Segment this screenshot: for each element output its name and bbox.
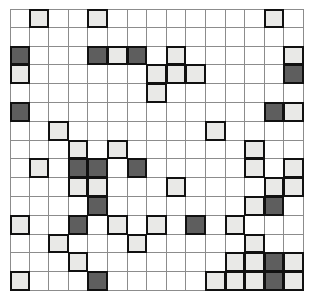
grid-cell-7-14 bbox=[284, 141, 304, 160]
grid-cell-13-14 bbox=[284, 253, 304, 272]
grid-cell-1-5 bbox=[108, 28, 128, 47]
grid-cell-1-6 bbox=[128, 28, 148, 47]
grid-cell-14-6 bbox=[128, 272, 148, 291]
grid-cell-9-14 bbox=[284, 178, 304, 197]
grid-cell-4-6 bbox=[128, 84, 148, 103]
grid-cell-0-14 bbox=[284, 9, 304, 28]
grid-cell-7-9 bbox=[186, 141, 206, 160]
grid-cell-10-14 bbox=[284, 197, 304, 216]
grid-cell-8-0 bbox=[10, 159, 30, 178]
grid-cell-8-9 bbox=[186, 159, 206, 178]
grid-cell-1-11 bbox=[226, 28, 246, 47]
grid-cell-13-7 bbox=[147, 253, 167, 272]
grid-cell-2-8 bbox=[167, 47, 187, 66]
grid-cell-12-7 bbox=[147, 235, 167, 254]
grid-cell-12-12 bbox=[245, 235, 265, 254]
grid-cell-9-6 bbox=[128, 178, 148, 197]
grid-cell-8-13 bbox=[265, 159, 285, 178]
grid-cell-10-13 bbox=[265, 197, 285, 216]
grid-cell-11-1 bbox=[30, 216, 50, 235]
grid-cell-3-14 bbox=[284, 65, 304, 84]
grid-cell-1-2 bbox=[49, 28, 69, 47]
grid-cell-14-4 bbox=[88, 272, 108, 291]
grid-cell-4-1 bbox=[30, 84, 50, 103]
grid-cell-8-4 bbox=[88, 159, 108, 178]
grid-cell-2-2 bbox=[49, 47, 69, 66]
grid-cell-5-10 bbox=[206, 103, 226, 122]
grid-cell-4-11 bbox=[226, 84, 246, 103]
grid-cell-4-13 bbox=[265, 84, 285, 103]
grid-cell-2-4 bbox=[88, 47, 108, 66]
grid-cell-4-14 bbox=[284, 84, 304, 103]
grid-cell-8-6 bbox=[128, 159, 148, 178]
grid-cell-8-14 bbox=[284, 159, 304, 178]
grid-cell-2-12 bbox=[245, 47, 265, 66]
grid-cell-6-0 bbox=[10, 122, 30, 141]
grid-cell-9-12 bbox=[245, 178, 265, 197]
grid-cell-4-3 bbox=[69, 84, 89, 103]
grid-cell-8-12 bbox=[245, 159, 265, 178]
grid-cell-14-2 bbox=[49, 272, 69, 291]
grid-cell-14-3 bbox=[69, 272, 89, 291]
grid-cell-1-7 bbox=[147, 28, 167, 47]
grid-cell-6-3 bbox=[69, 122, 89, 141]
grid-cell-14-11 bbox=[226, 272, 246, 291]
grid-cell-10-4 bbox=[88, 197, 108, 216]
grid-cell-9-2 bbox=[49, 178, 69, 197]
grid-cell-8-3 bbox=[69, 159, 89, 178]
grid-cell-12-14 bbox=[284, 235, 304, 254]
grid-cell-8-11 bbox=[226, 159, 246, 178]
grid-cell-14-8 bbox=[167, 272, 187, 291]
grid-cell-11-12 bbox=[245, 216, 265, 235]
grid-cell-12-3 bbox=[69, 235, 89, 254]
grid-cell-6-1 bbox=[30, 122, 50, 141]
grid-cell-10-1 bbox=[30, 197, 50, 216]
grid-cell-2-7 bbox=[147, 47, 167, 66]
grid-cell-2-11 bbox=[226, 47, 246, 66]
grid-cell-3-11 bbox=[226, 65, 246, 84]
grid-cells bbox=[10, 9, 304, 291]
grid-cell-3-6 bbox=[128, 65, 148, 84]
grid-cell-14-1 bbox=[30, 272, 50, 291]
grid-cell-6-11 bbox=[226, 122, 246, 141]
grid-cell-8-10 bbox=[206, 159, 226, 178]
grid-cell-9-4 bbox=[88, 178, 108, 197]
grid-cell-11-5 bbox=[108, 216, 128, 235]
grid-cell-13-6 bbox=[128, 253, 148, 272]
grid-cell-2-13 bbox=[265, 47, 285, 66]
grid-cell-11-10 bbox=[206, 216, 226, 235]
grid-cell-1-10 bbox=[206, 28, 226, 47]
grid-cell-14-0 bbox=[10, 272, 30, 291]
grid-cell-14-13 bbox=[265, 272, 285, 291]
grid-cell-0-0 bbox=[10, 9, 30, 28]
grid-cell-0-7 bbox=[147, 9, 167, 28]
grid-cell-3-2 bbox=[49, 65, 69, 84]
grid-cell-8-2 bbox=[49, 159, 69, 178]
grid-cell-0-10 bbox=[206, 9, 226, 28]
grid-cell-6-13 bbox=[265, 122, 285, 141]
grid-cell-7-6 bbox=[128, 141, 148, 160]
grid-cell-13-8 bbox=[167, 253, 187, 272]
grid-cell-11-0 bbox=[10, 216, 30, 235]
grid-cell-0-4 bbox=[88, 9, 108, 28]
grid-cell-14-12 bbox=[245, 272, 265, 291]
grid-cell-3-4 bbox=[88, 65, 108, 84]
grid-cell-2-0 bbox=[10, 47, 30, 66]
grid-cell-11-14 bbox=[284, 216, 304, 235]
grid-cell-12-6 bbox=[128, 235, 148, 254]
grid-surface bbox=[10, 9, 304, 291]
grid-cell-13-0 bbox=[10, 253, 30, 272]
grid-cell-3-3 bbox=[69, 65, 89, 84]
grid-cell-10-7 bbox=[147, 197, 167, 216]
grid-cell-4-2 bbox=[49, 84, 69, 103]
grid-cell-1-14 bbox=[284, 28, 304, 47]
grid-cell-8-5 bbox=[108, 159, 128, 178]
grid-cell-0-8 bbox=[167, 9, 187, 28]
grid-cell-11-6 bbox=[128, 216, 148, 235]
grid-cell-14-5 bbox=[108, 272, 128, 291]
grid-cell-14-9 bbox=[186, 272, 206, 291]
grid-cell-8-7 bbox=[147, 159, 167, 178]
grid-cell-5-8 bbox=[167, 103, 187, 122]
grid-cell-7-13 bbox=[265, 141, 285, 160]
grid-cell-4-5 bbox=[108, 84, 128, 103]
